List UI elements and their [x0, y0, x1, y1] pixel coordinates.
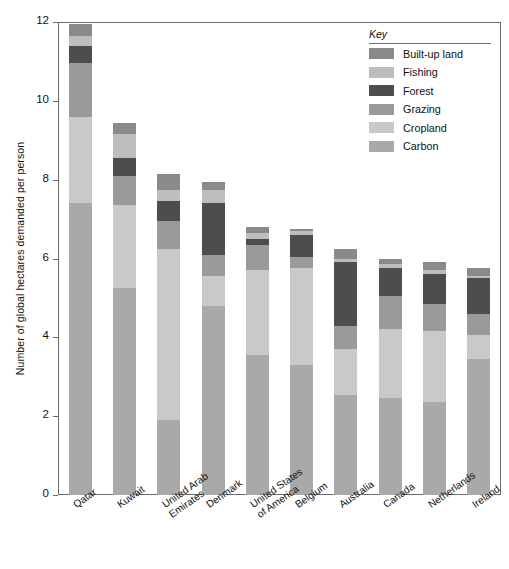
bar-united-arab-emirates — [157, 174, 180, 495]
bar-segment-forest — [202, 203, 225, 254]
bar-segment-cropland — [290, 268, 313, 365]
bar-segment-cropland — [202, 276, 225, 306]
bar-belgium — [290, 229, 313, 495]
bar-segment-forest — [467, 278, 490, 313]
legend-item: Built-up land — [369, 45, 497, 63]
legend-swatch-icon — [369, 141, 394, 152]
bar-segment-cropland — [423, 331, 446, 402]
bar-segment-built-up-land — [467, 268, 490, 276]
bar-segment-cropland — [246, 270, 269, 355]
bar-netherlands — [423, 262, 446, 495]
bar-segment-grazing — [157, 221, 180, 249]
bar-segment-fishing — [202, 190, 225, 204]
bar-segment-grazing — [379, 296, 402, 330]
bar-segment-fishing — [113, 134, 136, 158]
bar-segment-grazing — [423, 304, 446, 332]
bar-segment-grazing — [467, 314, 490, 336]
bar-kuwait — [113, 123, 136, 495]
legend-item: Forest — [369, 82, 497, 100]
bar-segment-carbon — [69, 203, 92, 495]
bar-segment-fishing — [69, 36, 92, 46]
legend-label: Fishing — [403, 66, 438, 78]
bar-segment-carbon — [334, 395, 357, 496]
legend-swatch-icon — [369, 85, 394, 96]
legend: Key Built-up landFishingForestGrazingCro… — [369, 28, 497, 155]
y-tick-label: 12 — [36, 14, 49, 26]
y-tick-label: 8 — [43, 172, 49, 184]
y-tick-label: 4 — [43, 329, 49, 341]
bar-segment-carbon — [202, 306, 225, 495]
bar-segment-grazing — [69, 63, 92, 116]
bar-ireland — [467, 268, 490, 495]
bar-segment-forest — [113, 158, 136, 176]
legend-swatch-icon — [369, 104, 394, 115]
legend-label: Forest — [403, 85, 434, 97]
bar-segment-forest — [69, 46, 92, 64]
bar-segment-cropland — [157, 249, 180, 420]
bar-segment-cropland — [113, 205, 136, 288]
bar-segment-cropland — [334, 349, 357, 394]
legend-title: Key — [369, 28, 491, 44]
bar-qatar — [69, 24, 92, 495]
bar-canada — [379, 259, 402, 495]
legend-item: Carbon — [369, 138, 497, 156]
legend-item: Grazing — [369, 101, 497, 119]
y-axis-tick: 0 — [0, 495, 58, 496]
legend-swatch-icon — [369, 48, 394, 59]
bar-segment-carbon — [379, 398, 402, 495]
bar-segment-grazing — [246, 245, 269, 271]
bar-segment-forest — [157, 201, 180, 221]
legend-label: Cropland — [403, 122, 447, 134]
bar-segment-built-up-land — [69, 24, 92, 36]
bar-segment-carbon — [423, 402, 446, 495]
legend-label: Built-up land — [403, 48, 463, 60]
y-axis-tick: 6 — [0, 259, 58, 260]
bar-segment-forest — [423, 274, 446, 304]
bar-australia — [334, 249, 357, 495]
legend-item: Cropland — [369, 119, 497, 137]
bar-segment-built-up-land — [423, 262, 446, 270]
bar-segment-carbon — [246, 355, 269, 495]
bar-segment-cropland — [69, 117, 92, 204]
legend-label: Carbon — [403, 140, 438, 152]
bar-segment-built-up-land — [202, 182, 225, 190]
bar-segment-built-up-land — [113, 123, 136, 135]
y-tick-label: 10 — [36, 93, 49, 105]
bar-segment-carbon — [157, 420, 180, 495]
bar-segment-built-up-land — [157, 174, 180, 190]
y-tick-label: 0 — [43, 487, 49, 499]
stacked-bar-chart: Number of global hectares demanded per p… — [0, 0, 509, 569]
bar-segment-fishing — [157, 190, 180, 202]
bar-segment-grazing — [334, 326, 357, 350]
bar-segment-cropland — [379, 329, 402, 398]
legend-swatch-icon — [369, 67, 394, 78]
y-tick-label: 6 — [43, 251, 49, 263]
bar-united-states-of-america — [246, 227, 269, 495]
legend-label: Grazing — [403, 103, 441, 115]
y-axis-tick: 10 — [0, 101, 58, 102]
y-axis-tick: 4 — [0, 337, 58, 338]
bar-segment-forest — [379, 268, 402, 296]
bar-segment-carbon — [113, 288, 136, 495]
y-tick-label: 2 — [43, 408, 49, 420]
bar-segment-cropland — [467, 335, 490, 359]
bar-segment-grazing — [113, 176, 136, 206]
bar-segment-grazing — [290, 257, 313, 269]
y-axis-tick: 12 — [0, 22, 58, 23]
y-tick-mark — [53, 495, 58, 496]
bar-segment-grazing — [202, 255, 225, 277]
bar-denmark — [202, 182, 225, 495]
legend-item: Fishing — [369, 64, 497, 82]
y-axis-tick: 8 — [0, 180, 58, 181]
legend-swatch-icon — [369, 122, 394, 133]
y-axis-tick: 2 — [0, 416, 58, 417]
bar-segment-built-up-land — [334, 249, 357, 259]
bar-segment-forest — [290, 235, 313, 257]
bar-segment-forest — [334, 262, 357, 325]
